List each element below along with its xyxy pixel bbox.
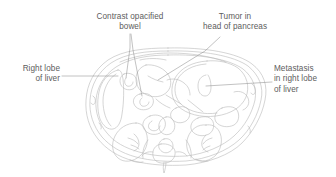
wall-mark-left-lower [99,123,101,129]
right-kidney-calyx [203,146,210,150]
label-metastasis-in-right-lobe-of-liver: Metastasis in right lobe of liver [274,64,336,95]
leader-bowel-right [131,34,142,96]
medical-illustration-figure: Contrast opacified bowel Tumor in head o… [0,0,336,177]
bowel-loop-center-inner [140,98,149,106]
transverse-process-right [176,152,187,156]
mesenteric-strand-1 [156,99,170,108]
label-tumor-in-head-of-pancreas: Tumor in head of pancreas [184,12,286,33]
right-kidney-hilum [202,135,208,152]
bowel-loop-right-of-center [171,107,190,123]
left-kidney-pelvis [128,138,138,144]
leader-metastasis [206,82,272,86]
bowel-loop-mid-right [191,117,214,136]
bowel-loop-upper-left-inner [125,78,133,86]
spinous-process [163,162,166,173]
wall-mark-left-upper [91,96,95,105]
mesenteric-strand-2 [166,95,181,104]
label-contrast-opacified-bowel: Contrast opacified bowel [78,12,182,33]
bowel-loop-far-right [234,91,249,110]
liver-inner-contour [103,74,116,126]
label-right-lobe-of-liver: Right lobe of liver [6,64,60,85]
metastasis-lesion-hook [198,75,211,96]
right-kidney-pelvis [203,138,212,144]
aorta [159,117,175,135]
bowel-loop-mid-left-inner [148,121,160,131]
muscle-layer-line [96,55,256,156]
pancreas-duct-line [148,76,163,82]
bowel-loop-mid-left [143,115,166,134]
falciform-region-line [140,59,166,61]
metastatic-liver-lobe [172,61,248,117]
